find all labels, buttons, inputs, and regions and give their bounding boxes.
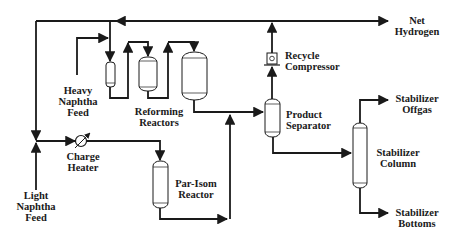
- reforming-reactors-label: Reforming Reactors: [133, 106, 185, 128]
- stabilizer-bottoms-label: Stabilizer Bottoms: [391, 207, 443, 229]
- flow-lines: [0, 0, 451, 237]
- par-isom-reactor-icon: [153, 161, 168, 208]
- reactor3-to-separator-line: [194, 100, 263, 112]
- charge-heater-label: Charge Heater: [62, 151, 104, 173]
- stabilizer-bottoms-line: [360, 188, 388, 213]
- par-isom-reactor-label: Par-Isom Reactor: [170, 178, 222, 200]
- net-hydrogen-label: Net Hydrogen: [392, 15, 442, 37]
- separator-to-stabilizer-line: [273, 137, 351, 153]
- product-separator-label: Product Separator: [286, 109, 331, 131]
- heavy-naphtha-feed-line: [77, 38, 108, 75]
- charge-heater-icon: [76, 136, 87, 147]
- par-isom-outlet-line: [160, 208, 227, 219]
- stabilizer-column-label: Stabilizer Column: [372, 147, 424, 169]
- stabilizer-offgas-label: Stabilizer Offgas: [391, 93, 443, 115]
- reactor2-to-reactor3-top-line: [168, 42, 194, 51]
- recycle-compressor-label: Recycle Compressor: [285, 50, 340, 72]
- heavy-naphtha-feed-label: Heavy Naphtha Feed: [54, 85, 102, 118]
- process-flow-diagram: Net Hydrogen Recycle Compressor Heavy Na…: [0, 0, 451, 237]
- light-naphtha-feed-label: Light Naphtha Feed: [12, 190, 60, 223]
- stabilizer-offgas-line: [360, 100, 388, 123]
- product-separator-icon: [265, 99, 280, 137]
- stabilizer-column-icon: [353, 123, 367, 188]
- reactor1-to-reactor2-top-line: [128, 42, 148, 56]
- recycle-compressor-icon: [267, 53, 277, 64]
- reforming-reactor-2-icon: [139, 57, 157, 91]
